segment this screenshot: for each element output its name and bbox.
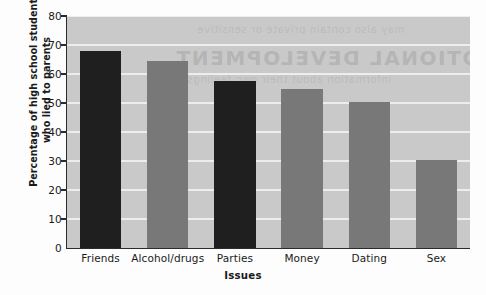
bar: [147, 61, 188, 248]
y-axis-tick-mark: [61, 189, 66, 190]
y-axis-tick-label: 60: [30, 68, 62, 80]
plot-area: may also contain private or sensitive AL…: [67, 16, 470, 248]
y-axis-tick-label: 40: [30, 126, 62, 138]
y-axis-tick-label: 30: [30, 155, 62, 167]
gridline: [67, 102, 470, 103]
x-axis-tick-label: Dating: [352, 252, 387, 264]
y-axis-tick-mark: [61, 73, 66, 74]
y-axis-tick-label: 10: [30, 213, 62, 225]
bar: [80, 51, 121, 248]
y-axis-tick-mark: [61, 160, 66, 161]
y-axis-tick-label: 80: [30, 10, 62, 22]
bar: [214, 81, 255, 248]
y-axis-tick-mark: [61, 44, 66, 45]
watermark-main-text: ALL EMOTIONAL DEVELOPMENT: [175, 46, 470, 70]
x-axis-title: Issues: [0, 270, 486, 281]
y-axis-tick-mark: [61, 102, 66, 103]
x-axis-tick-label: Money: [284, 252, 319, 264]
y-axis-tick-label: 20: [30, 184, 62, 196]
y-axis-tick-label: 50: [30, 97, 62, 109]
y-axis-tick-label: 0: [30, 242, 62, 254]
gridline: [67, 131, 470, 132]
y-axis-tick-mark: [61, 218, 66, 219]
y-axis-tick-mark: [61, 15, 66, 16]
bar: [349, 102, 390, 248]
gridline: [67, 44, 470, 45]
x-axis-tick-label: Sex: [427, 252, 446, 264]
x-axis-tick-label: Alcohol/drugs: [131, 252, 204, 264]
x-axis-spine: [66, 248, 470, 249]
gridline: [67, 189, 470, 190]
gridline: [67, 218, 470, 219]
x-axis-tick-label: Friends: [81, 252, 119, 264]
x-axis-tick-label: Parties: [217, 252, 253, 264]
y-axis-tick-label: 70: [30, 39, 62, 51]
gridline: [67, 160, 470, 161]
y-axis-tick-labels: 01020304050607080: [30, 0, 62, 295]
x-axis-tick-labels: FriendsAlcohol/drugsPartiesMoneyDatingSe…: [67, 252, 470, 270]
bar-chart-figure: Percentage of high school students who l…: [0, 0, 486, 295]
y-axis-tick-mark: [61, 131, 66, 132]
gridline: [67, 16, 470, 17]
gridline: [67, 73, 470, 74]
bar: [416, 160, 457, 248]
bar: [281, 89, 322, 249]
watermark-line2: may also contain private or sensitive: [197, 24, 404, 35]
